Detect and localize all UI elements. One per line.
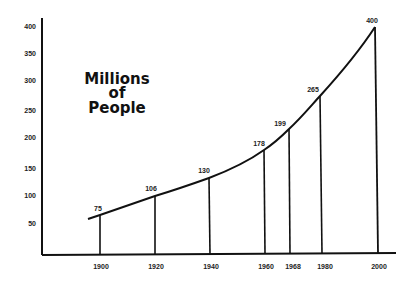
y-tick-labels: 400 350 300 250 200 150 100 50 [24,23,36,227]
y-tick-label: 300 [24,77,36,84]
y-tick-label: 350 [24,50,36,57]
drop-line-1940 [209,178,210,255]
title-line-3: People [88,99,146,117]
drop-line-1980 [320,96,322,254]
x-tick-label: 1960 [258,263,274,270]
y-tick-label: 250 [24,107,36,114]
drop-line-1960 [264,150,265,254]
value-label: 106 [145,185,157,192]
y-tick-label: 100 [24,192,36,199]
y-tick-label: 400 [24,23,36,30]
drop-lines [100,27,378,255]
x-tick-label: 1920 [148,263,164,270]
y-tick-label: 150 [24,165,36,172]
x-tick-label: 1980 [317,263,333,270]
population-curve [88,27,375,219]
y-tick-label: 50 [28,220,36,227]
value-label: 130 [198,167,210,174]
drop-line-2000 [375,27,378,253]
value-label: 178 [253,140,265,147]
x-tick-labels: 1900 1920 1940 1960 1968 1980 2000 [93,263,387,270]
x-tick-label: 1940 [203,263,219,270]
x-axis [42,253,396,255]
value-label: 265 [307,86,319,93]
x-tick-label: 2000 [371,263,387,270]
x-tick-label: 1968 [285,263,301,270]
value-label: 199 [274,120,286,127]
drop-line-1968 [289,129,290,254]
value-label: 400 [366,17,378,24]
value-label: 75 [94,205,102,212]
population-chart: 400 350 300 250 200 150 100 50 Millions … [0,0,414,285]
x-tick-label: 1900 [93,263,109,270]
chart-title: Millions of People [84,70,149,117]
y-tick-label: 200 [24,134,36,141]
